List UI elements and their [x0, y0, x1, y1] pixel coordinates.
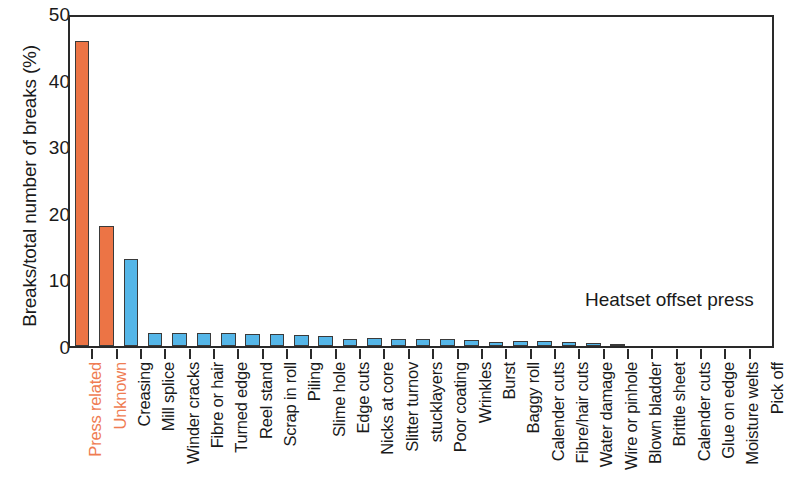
x-tick-label: Press related: [86, 362, 105, 457]
plot-area: Heatset offset press: [68, 15, 774, 348]
x-tick-mark: [91, 349, 93, 359]
x-tick-mark: [140, 349, 142, 359]
x-tick-label: Slime hole: [330, 362, 349, 437]
x-tick-mark: [724, 349, 726, 359]
bar: [75, 41, 90, 346]
x-tick-mark: [651, 349, 653, 359]
x-tick-label: Edge cuts: [354, 362, 373, 434]
x-tick-mark: [237, 349, 239, 359]
y-axis-title: Breaks/total number of breaks (%): [19, 16, 41, 356]
y-tick-label: 30: [26, 137, 70, 159]
x-tick-mark: [262, 349, 264, 359]
bar: [391, 339, 406, 346]
x-tick-label: stucklayers: [427, 362, 446, 442]
bar: [489, 342, 504, 346]
x-tick-mark: [505, 349, 507, 359]
x-tick-label: Piling: [305, 362, 324, 401]
x-tick-label: Fibre or hair: [208, 362, 227, 448]
bar: [537, 341, 552, 346]
x-tick-mark: [432, 349, 434, 359]
x-tick-mark: [481, 349, 483, 359]
x-tick-label: Calender cuts: [695, 362, 714, 461]
x-tick-label: Turned edge: [232, 362, 251, 453]
bar: [221, 333, 236, 346]
x-tick-label: Brittle sheet: [670, 362, 689, 447]
y-tick-label: 10: [26, 270, 70, 292]
x-tick-label: Water damage: [597, 362, 616, 467]
x-tick-label: Reel stand: [257, 362, 276, 439]
bar: [513, 341, 528, 346]
x-tick-mark: [335, 349, 337, 359]
bar: [367, 338, 382, 346]
x-tick-label: Winder cracks: [184, 362, 203, 464]
x-tick-label: Calender cuts: [549, 362, 568, 461]
x-tick-mark: [749, 349, 751, 359]
x-tick-label: Blown bladder: [646, 362, 665, 464]
x-tick-mark: [213, 349, 215, 359]
x-tick-mark: [627, 349, 629, 359]
y-tick-label: 40: [26, 71, 70, 93]
x-tick-mark: [408, 349, 410, 359]
bar: [610, 344, 625, 346]
chart-annotation: Heatset offset press: [585, 289, 754, 311]
x-tick-label: Moisture welts: [743, 362, 762, 465]
x-tick-label: Pick off: [768, 362, 787, 414]
x-tick-mark: [359, 349, 361, 359]
x-tick-mark: [310, 349, 312, 359]
bar: [294, 335, 309, 346]
bar: [197, 333, 212, 346]
bar: [416, 339, 431, 346]
y-tick-label: 20: [26, 204, 70, 226]
x-tick-mark: [676, 349, 678, 359]
x-tick-label: Burst: [500, 362, 519, 400]
x-tick-label: Baggy roll: [524, 362, 543, 433]
x-tick-mark: [383, 349, 385, 359]
x-tick-mark: [164, 349, 166, 359]
x-tick-mark: [116, 349, 118, 359]
y-tick-label: 50: [26, 4, 70, 26]
x-tick-label: Nicks at core: [378, 362, 397, 455]
x-tick-label: Wire or pinhole: [622, 362, 641, 470]
x-tick-label: Glue on edge: [719, 362, 738, 459]
x-tick-label: Scrap in roll: [281, 362, 300, 447]
bar: [99, 226, 114, 346]
x-tick-label: Fibre/hair cuts: [573, 362, 592, 464]
x-tick-mark: [700, 349, 702, 359]
bar: [586, 343, 601, 346]
bar: [245, 334, 260, 346]
x-tick-mark: [603, 349, 605, 359]
x-tick-mark: [554, 349, 556, 359]
x-tick-label: Wrinkles: [476, 362, 495, 423]
x-tick-mark: [286, 349, 288, 359]
bar: [464, 340, 479, 346]
bar: [124, 259, 139, 346]
bar: [318, 336, 333, 346]
bar: [148, 333, 163, 346]
bar: [270, 334, 285, 346]
x-tick-mark: [457, 349, 459, 359]
bar: [562, 342, 577, 346]
x-tick-label: Creasing: [135, 362, 154, 426]
x-tick-mark: [530, 349, 532, 359]
x-tick-label: Slitter turnov: [403, 362, 422, 452]
y-tick-label: 0: [26, 337, 70, 359]
bar: [440, 339, 455, 346]
bar: [172, 333, 187, 346]
x-tick-mark: [578, 349, 580, 359]
x-tick-label: Unknown: [111, 362, 130, 429]
x-tick-label: Mill splice: [159, 362, 178, 431]
bar: [343, 339, 358, 346]
x-tick-label: Poor coating: [451, 362, 470, 452]
x-tick-mark: [189, 349, 191, 359]
